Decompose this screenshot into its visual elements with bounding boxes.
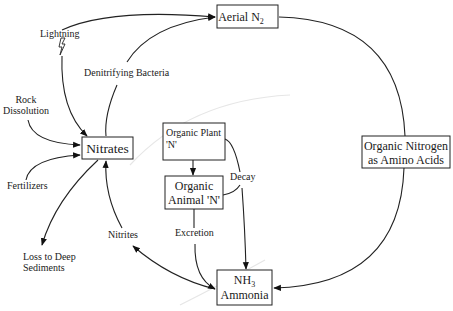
aerial-n2-label: Aerial N	[218, 10, 260, 24]
svg-text:Aerial N2: Aerial N2	[218, 10, 264, 26]
node-organic-plant: Organic Plant 'N'	[163, 123, 225, 160]
label-lightning: Lightning	[40, 28, 79, 39]
lightning-bolt-icon	[59, 38, 65, 55]
nitrogen-cycle-diagram: Aerial N2 Nitrates Organic Plant 'N' Org…	[0, 0, 453, 311]
label-nitrites: Nitrites	[108, 229, 138, 240]
edge-excretion-to-ammonia	[195, 244, 215, 289]
node-aerial-n2: Aerial N2	[217, 5, 278, 28]
edge-animal-decay	[223, 185, 240, 195]
label-sediments: Sediments	[23, 262, 65, 273]
node-ammonia: NH3 Ammonia	[217, 270, 272, 305]
edge-nitrites-to-nitrates	[106, 161, 122, 228]
node-organic-nitrogen: Organic Nitrogen as Amino Acids	[362, 136, 450, 168]
edge-ammonia-to-nitrites	[133, 246, 215, 289]
edge-organic-nitrogen-to-ammonia	[274, 168, 404, 288]
label-loss-to-deep: Loss to Deep	[23, 251, 76, 262]
edge-aerial-n2-to-organic-nitrogen	[279, 17, 405, 136]
organic-plant-line2: 'N'	[166, 139, 177, 150]
ammonia-label: Ammonia	[221, 288, 270, 302]
label-excretion: Excretion	[175, 227, 214, 238]
edge-plant-decay	[225, 139, 240, 172]
label-decay: Decay	[230, 171, 256, 182]
node-nitrates: Nitrates	[82, 137, 133, 159]
edge-rock-dissolution-to-nitrates	[28, 120, 80, 145]
organic-animal-line2: Animal 'N'	[168, 193, 220, 207]
organic-plant-line1: Organic Plant	[166, 127, 221, 138]
edge-nitrates-to-aerial-n2	[106, 85, 117, 136]
edge-fertilizers-to-nitrates	[26, 155, 80, 180]
edge-nitrates-to-loss	[42, 160, 98, 245]
edge-denitrifying-to-aerial-n2	[127, 17, 215, 62]
node-organic-animal: Organic Animal 'N'	[165, 176, 223, 209]
nitrates-label: Nitrates	[86, 141, 129, 156]
edge-lightning-to-aerial-n2	[62, 14, 215, 30]
label-denitrifying-bacteria: Denitrifying Bacteria	[84, 67, 170, 78]
label-rock: Rock	[15, 94, 36, 105]
ammonia-formula: NH	[234, 273, 252, 287]
label-dissolution: Dissolution	[3, 105, 49, 116]
edge-decay-to-ammonia	[242, 188, 246, 269]
label-fertilizers: Fertilizers	[7, 180, 48, 191]
organic-animal-line1: Organic	[175, 179, 213, 193]
organic-nitrogen-line1: Organic Nitrogen	[364, 139, 448, 153]
aerial-n2-subscript: 2	[260, 17, 264, 26]
organic-nitrogen-line2: as Amino Acids	[368, 153, 444, 167]
